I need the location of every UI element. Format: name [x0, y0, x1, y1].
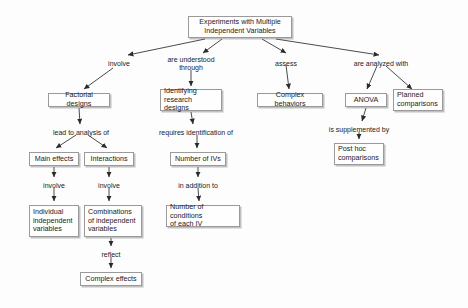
edge-label-involve-factorial: involve	[108, 60, 130, 68]
edge-root-to-assess	[262, 39, 286, 53]
node-combinations-of-independent-variables[interactable]: Combinations of independent variables	[84, 205, 142, 237]
node-complex-effects[interactable]: Complex effects	[80, 272, 142, 286]
edge-label-is-supplemented-by: is supplemented by	[329, 126, 389, 134]
concept-map-canvas: Experiments with Multiple Independent Va…	[0, 0, 468, 308]
edge-label-reflect: reflect	[101, 251, 120, 259]
node-main-effects[interactable]: Main effects	[29, 152, 79, 166]
edge-label-involve-main: involve	[43, 182, 65, 190]
edge-involve-to-factorial	[84, 68, 113, 89]
edge-label-involve-interactions: involve	[98, 182, 120, 190]
node-factorial-designs[interactable]: Factorial designs	[48, 93, 110, 107]
edge-root-to-understood	[203, 39, 222, 53]
edge-label-requires-identification-of: requires identification of	[159, 129, 233, 137]
edge-assess-to-complexbeh	[286, 65, 289, 89]
edge-label-analyzed-with: are analyzed with	[354, 60, 408, 68]
node-interactions[interactable]: Interactions	[84, 152, 134, 166]
node-identifying-research-designs[interactable]: Identifying research designs	[160, 89, 222, 111]
edge-label-understood-through: are understood through	[167, 56, 214, 73]
edge-factorial-to-lead	[79, 108, 80, 124]
node-post-hoc-comparisons[interactable]: Post hoc comparisons	[334, 143, 384, 165]
edge-root-to-involve	[128, 39, 205, 55]
node-experiments-root[interactable]: Experiments with Multiple Independent Va…	[188, 16, 292, 38]
node-number-of-ivs[interactable]: Number of IVs	[170, 152, 226, 166]
edge-label-lead-to-analysis-of: lead to analysis of	[53, 129, 109, 137]
node-planned-comparisons[interactable]: Planned comparisons	[393, 89, 443, 111]
edge-root-to-analyzed	[276, 39, 379, 55]
edge-identifying-to-requires	[191, 112, 193, 124]
node-individual-independent-variables[interactable]: Individual independent variables	[29, 205, 79, 237]
edge-label-in-addition-to: in addition to	[178, 182, 218, 190]
edge-analyzed-to-planned	[386, 66, 412, 89]
edge-label-assess: assess	[275, 60, 297, 68]
edge-analyzed-to-anova	[367, 66, 377, 89]
node-anova[interactable]: ANOVA	[345, 93, 387, 107]
node-complex-behaviors[interactable]: Complex behaviors	[257, 93, 323, 107]
node-number-of-conditions[interactable]: Number of conditions of each IV	[166, 205, 240, 227]
edge-anova-to-supplemented	[362, 108, 366, 121]
